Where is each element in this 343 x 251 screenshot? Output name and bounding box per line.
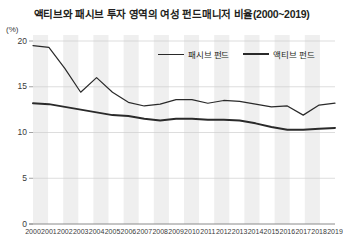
- chart-container: 액티브와 패시브 투자 영역의 여성 펀드매니저 비율(2000~2019) (…: [0, 0, 343, 251]
- x-axis-tick-label: 2005: [105, 228, 121, 235]
- legend-label-active: 액티브 펀드: [273, 48, 314, 60]
- chart-legend: 패시브 펀드 액티브 펀드: [158, 48, 314, 60]
- y-axis-tick-label: 20: [5, 36, 27, 46]
- y-axis-tick-label: 15: [5, 81, 27, 91]
- legend-line-icon-active: [243, 53, 269, 55]
- x-axis-tick-label: 2012: [216, 228, 232, 235]
- x-axis-tick-label: 2018: [311, 228, 327, 235]
- x-axis-tick-label: 2017: [295, 228, 311, 235]
- y-axis-tick-label: 10: [5, 127, 27, 137]
- x-axis-tick-label: 2003: [73, 228, 89, 235]
- x-axis-tick-label: 2002: [57, 228, 73, 235]
- legend-item-passive[interactable]: 패시브 펀드: [158, 48, 229, 60]
- legend-item-active[interactable]: 액티브 펀드: [243, 48, 314, 60]
- x-axis-tick-label: 2007: [137, 228, 153, 235]
- legend-line-icon-passive: [158, 54, 184, 55]
- x-axis-tick-label: 2013: [232, 228, 248, 235]
- x-axis-tick-label: 2016: [280, 228, 296, 235]
- x-axis-tick-label: 2010: [184, 228, 200, 235]
- x-axis-tick-label: 2014: [248, 228, 264, 235]
- x-axis-tick-label: 2000: [25, 228, 41, 235]
- legend-label-passive: 패시브 펀드: [188, 48, 229, 60]
- x-axis-tick-label: 2015: [264, 228, 280, 235]
- x-axis-tick-label: 2008: [152, 228, 168, 235]
- x-axis-tick-label: 2019: [327, 228, 343, 235]
- x-axis-tick-label: 2006: [121, 228, 137, 235]
- x-axis-tick-label: 2011: [200, 228, 215, 235]
- x-axis-tick-label: 2001: [41, 228, 57, 235]
- x-axis-tick-label: 2009: [168, 228, 184, 235]
- x-axis-tick-label: 2004: [89, 228, 105, 235]
- y-axis-tick-label: 5: [5, 173, 27, 183]
- y-axis-tick-label: 0: [5, 219, 27, 229]
- plot-area: [0, 0, 343, 251]
